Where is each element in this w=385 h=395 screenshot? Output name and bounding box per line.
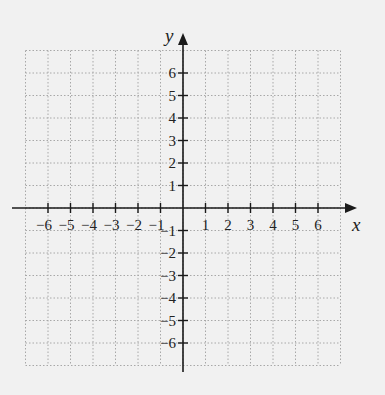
y-axis-label: y [163, 25, 174, 46]
x-tick-label: 4 [269, 217, 277, 233]
x-tick-label: −5 [59, 217, 75, 233]
x-tick-label: −2 [126, 217, 142, 233]
x-tick-label: 5 [292, 217, 300, 233]
x-tick-label: −3 [104, 217, 120, 233]
y-tick-label: −4 [160, 290, 176, 306]
y-tick-label: 3 [169, 133, 177, 149]
coordinate-plane: −6−5−4−3−2−1123456654321−1−2−3−4−5−6 x y [0, 0, 385, 395]
y-tick-label: −1 [160, 223, 176, 239]
x-tick-label: −6 [36, 217, 52, 233]
x-tick-label: 6 [314, 217, 322, 233]
x-tick-label: 2 [224, 217, 232, 233]
y-tick-label: 2 [169, 155, 177, 171]
y-tick-label: −2 [160, 245, 176, 261]
x-tick-label: −4 [81, 217, 97, 233]
x-axis-label: x [351, 214, 361, 235]
x-tick-label: 3 [247, 217, 255, 233]
x-tick-label: 1 [202, 217, 210, 233]
y-tick-label: 4 [169, 110, 177, 126]
y-tick-label: −3 [160, 268, 176, 284]
y-axis-arrow-icon [178, 33, 188, 45]
y-tick-label: 5 [169, 88, 177, 104]
y-tick-label: −5 [160, 313, 176, 329]
x-axis-arrow-icon [345, 203, 357, 213]
y-tick-label: 1 [169, 178, 177, 194]
y-tick-label: 6 [169, 65, 177, 81]
y-tick-label: −6 [160, 335, 176, 351]
